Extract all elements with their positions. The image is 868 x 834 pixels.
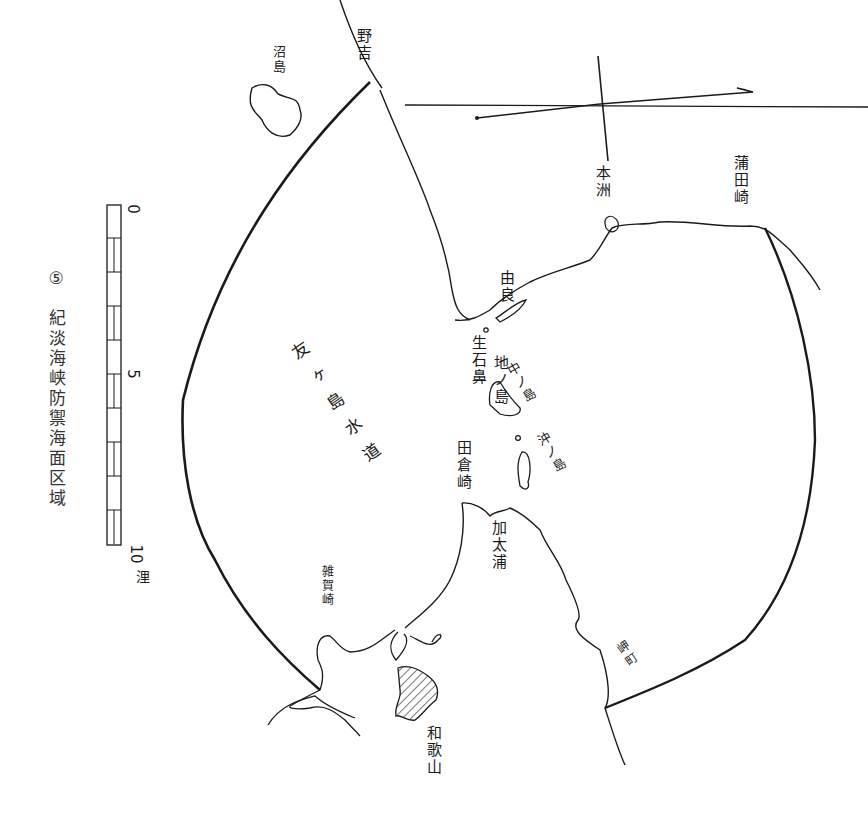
place-label-okinoshima: 沼島 — [272, 45, 285, 75]
figure-number: ⑤ — [46, 268, 66, 291]
place-label-tanowa-point: 田倉崎 — [455, 440, 470, 491]
figure-caption: ⑤ 紀淡海峡防禦海面区域 — [44, 268, 69, 509]
southern-coastline-west — [268, 696, 355, 725]
awaji-coastline — [380, 90, 470, 320]
southern-coastline — [290, 630, 395, 736]
place-label-jinoshima: 地ノ島 — [492, 355, 507, 406]
place-label-yura: 由良 — [498, 270, 513, 304]
place-label-wakayama: 和歌山 — [425, 725, 440, 776]
map-canvas — [0, 0, 868, 834]
place-label-honshu: 本洲 — [594, 165, 609, 199]
place-label-gamoda-point: 蒲田崎 — [732, 155, 747, 206]
scale-unit: 浬 — [132, 570, 152, 584]
compass-axis-horizontal — [405, 105, 868, 107]
kii-coastline-south — [405, 503, 463, 628]
north-arrow-icon — [477, 88, 753, 118]
wakayama-city-hatched — [396, 667, 438, 721]
scale-label-start: 0 — [124, 204, 142, 214]
defense-zone-boundary — [182, 82, 370, 690]
defense-zone-boundary-east — [605, 228, 815, 708]
place-label-kada-bay: 加太浦 — [490, 520, 505, 571]
place-label-southern-point: 雑賀崎 — [320, 565, 332, 607]
scale-bar — [107, 205, 121, 545]
okinoshima-2-island — [518, 452, 530, 489]
figure-title: 紀淡海峡防禦海面区域 — [46, 309, 66, 509]
compass-axis-vertical — [598, 56, 608, 161]
wakayama-harbor — [391, 632, 441, 660]
kii-coastline-north — [462, 503, 625, 765]
scale-label-mid: 5 — [124, 369, 142, 379]
scale-label-end: 10 — [127, 544, 145, 563]
place-label-ikuishi-point: 生石鼻 — [470, 335, 485, 386]
okinoshima-island — [250, 85, 301, 137]
place-label-awaji-tip: 野吉 — [355, 28, 370, 62]
